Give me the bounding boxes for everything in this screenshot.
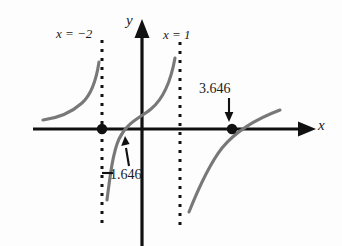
x-axis-label: x — [318, 118, 325, 133]
curve-branch-left — [43, 62, 99, 120]
asymptote-label-x-minus-2: x = −2 — [56, 27, 92, 40]
asymptote-label-x-1: x = 1 — [163, 28, 191, 41]
point-marker-asymptote-left — [97, 124, 107, 134]
root-label-1-646: 1.646 — [110, 168, 142, 182]
root-label-3-646: 3.646 — [199, 82, 231, 96]
x-axis — [33, 122, 316, 137]
point-marker-root-right — [227, 124, 237, 134]
y-axis-label: y — [126, 13, 133, 28]
rational-function-figure: x = −2 x = 1 y x 3.646 1.646 — [0, 0, 342, 246]
annotation-arrow-root-left-head — [121, 136, 129, 146]
annotation-arrow-root-right-head — [225, 112, 234, 122]
annotation-arrow-root-left-shaft — [126, 148, 129, 166]
annotation-arrow-root-left — [121, 136, 129, 166]
annotation-arrow-root-right — [225, 98, 234, 122]
x-axis-arrowhead — [298, 122, 316, 137]
y-axis-arrowhead — [135, 19, 150, 38]
y-axis — [135, 19, 150, 246]
